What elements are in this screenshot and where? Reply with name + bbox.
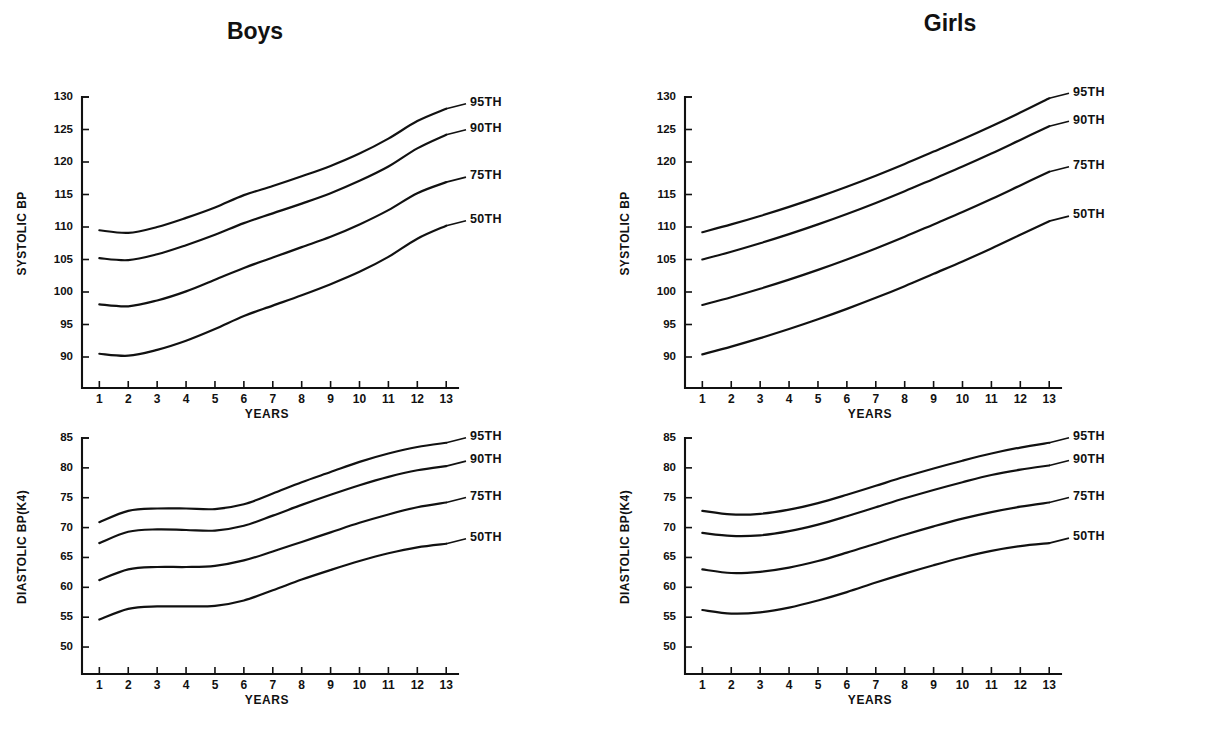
series-label-75th: 75TH <box>470 489 502 503</box>
series-leader-75th <box>1049 167 1069 172</box>
series-label-50th: 50TH <box>1073 529 1105 543</box>
series-label-75th: 75TH <box>1073 489 1105 503</box>
chart-girls-systolic: 9095100105110115120125130123456789101112… <box>603 60 1207 410</box>
y-axis-title: DIASTOLIC BP(K4) <box>618 490 632 604</box>
x-tick-label: 7 <box>872 678 879 692</box>
y-tick-label: 115 <box>657 188 676 200</box>
x-tick-label: 2 <box>728 678 735 692</box>
series-curve-75th <box>99 182 446 306</box>
x-tick-label: 1 <box>699 678 706 692</box>
y-tick-label: 130 <box>657 90 676 102</box>
x-tick-label: 13 <box>440 678 454 692</box>
series-leader-50th <box>1049 216 1069 221</box>
x-tick-label: 5 <box>212 678 219 692</box>
y-tick-label: 70 <box>663 521 676 533</box>
x-tick-label: 11 <box>985 678 998 692</box>
x-tick-label: 3 <box>154 678 161 692</box>
y-tick-label: 120 <box>657 155 676 167</box>
series-curve-95th <box>702 98 1049 232</box>
y-tick-label: 120 <box>54 155 73 167</box>
series-leader-95th <box>446 438 466 443</box>
series-label-90th: 90TH <box>1073 113 1105 127</box>
y-tick-label: 100 <box>657 285 676 297</box>
series-curve-50th <box>702 543 1049 614</box>
x-tick-label: 9 <box>327 678 334 692</box>
x-tick-label: 4 <box>786 678 793 692</box>
x-tick-label: 9 <box>930 678 937 692</box>
series-leader-95th <box>446 104 466 109</box>
series-leader-50th <box>446 221 466 226</box>
y-tick-label: 130 <box>54 90 73 102</box>
series-curve-75th <box>99 503 446 581</box>
x-axis-title: YEARS <box>245 693 289 707</box>
y-tick-label: 85 <box>663 431 676 443</box>
y-tick-label: 75 <box>60 491 73 503</box>
y-tick-label: 85 <box>60 431 73 443</box>
y-tick-label: 80 <box>663 461 676 473</box>
series-label-95th: 95TH <box>1073 429 1105 443</box>
x-tick-label: 12 <box>411 678 425 692</box>
series-label-95th: 95TH <box>470 429 502 443</box>
series-curve-50th <box>99 226 446 356</box>
y-tick-label: 90 <box>60 350 73 362</box>
series-label-90th: 90TH <box>470 121 502 135</box>
y-tick-label: 90 <box>663 350 676 362</box>
x-tick-label: 6 <box>241 678 248 692</box>
y-tick-label: 110 <box>54 220 73 232</box>
series-label-90th: 90TH <box>1073 452 1105 466</box>
x-tick-label: 10 <box>353 678 367 692</box>
series-leader-75th <box>1049 498 1069 503</box>
y-tick-label: 55 <box>663 610 676 622</box>
page-title-boys: Boys <box>160 18 350 45</box>
y-tick-label: 95 <box>663 318 676 330</box>
y-tick-label: 60 <box>60 580 73 592</box>
y-tick-label: 70 <box>60 521 73 533</box>
series-label-50th: 50TH <box>470 530 502 544</box>
y-tick-label: 125 <box>657 123 677 135</box>
series-leader-50th <box>446 539 466 544</box>
x-tick-label: 7 <box>269 678 276 692</box>
series-curve-90th <box>99 135 446 261</box>
series-leader-75th <box>446 177 466 182</box>
series-curve-75th <box>702 172 1049 305</box>
x-tick-label: 8 <box>298 678 305 692</box>
x-tick-label: 11 <box>382 678 395 692</box>
x-tick-label: 12 <box>1014 678 1028 692</box>
series-curve-50th <box>702 221 1049 354</box>
series-leader-50th <box>1049 538 1069 543</box>
y-axis-title: DIASTOLIC BP(K4) <box>15 490 29 604</box>
series-label-75th: 75TH <box>470 168 502 182</box>
y-tick-label: 105 <box>54 253 74 265</box>
y-tick-label: 65 <box>663 550 676 562</box>
series-label-95th: 95TH <box>470 95 502 109</box>
y-tick-label: 80 <box>60 461 73 473</box>
chart-boys-diastolic: 505560657075808512345678910111213YEARSDI… <box>0 398 604 750</box>
series-label-95th: 95TH <box>1073 85 1105 99</box>
series-leader-95th <box>1049 93 1069 98</box>
series-label-75th: 75TH <box>1073 158 1105 172</box>
y-tick-label: 95 <box>60 318 73 330</box>
series-curve-75th <box>702 503 1049 574</box>
y-tick-label: 50 <box>60 640 73 652</box>
x-tick-label: 1 <box>96 678 103 692</box>
y-tick-label: 100 <box>54 285 73 297</box>
series-leader-90th <box>1049 121 1069 126</box>
y-axis-title: SYSTOLIC BP <box>618 191 632 275</box>
y-axis-title: SYSTOLIC BP <box>15 191 29 275</box>
series-leader-90th <box>1049 460 1069 465</box>
x-tick-label: 13 <box>1043 678 1057 692</box>
series-leader-75th <box>446 498 466 503</box>
y-tick-label: 50 <box>663 640 676 652</box>
x-tick-label: 5 <box>815 678 822 692</box>
series-curve-95th <box>702 443 1049 515</box>
series-leader-90th <box>446 130 466 135</box>
x-tick-label: 10 <box>956 678 970 692</box>
series-curve-90th <box>702 465 1049 536</box>
page-title-girls: Girls <box>855 10 1045 37</box>
series-curve-90th <box>99 466 446 543</box>
y-tick-label: 105 <box>657 253 677 265</box>
y-tick-label: 55 <box>60 610 73 622</box>
x-tick-label: 2 <box>125 678 132 692</box>
x-axis-title: YEARS <box>848 693 892 707</box>
x-tick-label: 3 <box>757 678 764 692</box>
